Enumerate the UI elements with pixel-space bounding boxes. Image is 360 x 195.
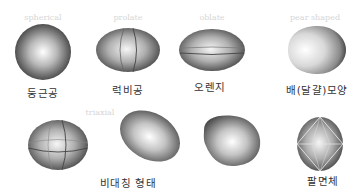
asymmetric-shape-2 <box>204 116 260 166</box>
label-oblate: 오렌지 <box>194 79 226 94</box>
watermark-spherical: spherical <box>24 13 61 22</box>
spherical-shape <box>15 24 71 80</box>
watermark-prolate: prolate <box>113 13 142 22</box>
prolate-shape <box>96 28 160 72</box>
label-prolate: 럭비공 <box>112 82 144 97</box>
asymmetric-shape-1 <box>111 100 189 172</box>
triaxial-shape <box>28 120 88 170</box>
label-spherical: 둥근공 <box>27 85 59 100</box>
octahedral-shape <box>297 117 343 171</box>
label-asymmetric: 비대칭 형태 <box>100 175 156 190</box>
pear-shaped-shape <box>288 26 346 74</box>
oblate-shape <box>179 29 245 71</box>
watermark-pear-shaped: pear shaped <box>290 13 340 22</box>
watermark-oblate: oblate <box>199 13 224 22</box>
label-octahedral: 팔면체 <box>307 173 339 188</box>
label-pear-shaped: 배(달걀)모양 <box>286 82 348 97</box>
watermark-triaxial: triaxial <box>86 108 115 117</box>
